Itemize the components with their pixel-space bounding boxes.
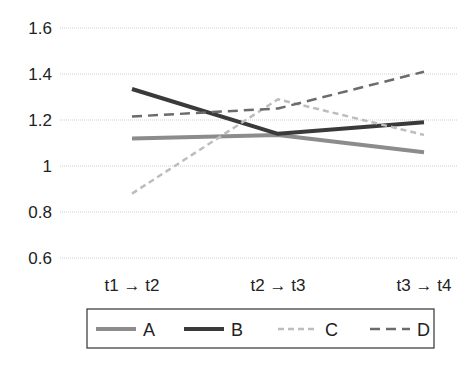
y-tick-label: 0.6: [28, 249, 52, 268]
line-chart: 0.60.811.21.41.6 t1 → t2t2 → t3t3 → t4 A…: [0, 0, 476, 369]
x-tick-label: t2 → t3: [251, 276, 306, 295]
series-lines: [132, 72, 424, 194]
x-axis-labels: t1 → t2t2 → t3t3 → t4: [105, 276, 452, 295]
gridlines: [60, 28, 458, 258]
legend-label-c: C: [325, 320, 338, 340]
y-tick-label: 0.8: [28, 203, 52, 222]
y-tick-label: 1.4: [28, 65, 52, 84]
legend-label-d: D: [417, 320, 430, 340]
y-tick-label: 1.2: [28, 111, 52, 130]
x-tick-label: t1 → t2: [105, 276, 160, 295]
legend-label-b: B: [231, 320, 243, 340]
y-tick-label: 1.6: [28, 19, 52, 38]
series-line-d: [132, 72, 424, 117]
y-tick-label: 1: [43, 157, 52, 176]
series-line-b: [132, 89, 424, 134]
legend-box: [87, 309, 434, 348]
y-axis-labels: 0.60.811.21.41.6: [28, 19, 52, 268]
x-tick-label: t3 → t4: [397, 276, 452, 295]
legend: ABCD: [87, 309, 434, 348]
legend-label-a: A: [143, 320, 155, 340]
series-line-a: [132, 135, 424, 152]
